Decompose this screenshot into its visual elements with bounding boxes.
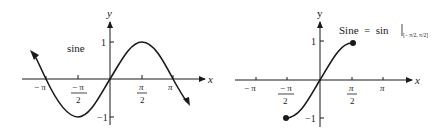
y-axis-label: y — [106, 7, 112, 19]
tick-label-half-pi-den: 2 — [140, 95, 145, 105]
figure: y x sine 1 −1 − π − π 2 π 2 π y x Sine = — [0, 0, 445, 134]
tick-label-half-pi-num: π — [139, 82, 144, 92]
x-axis-label: x — [207, 73, 213, 85]
y-one-label: 1 — [101, 37, 106, 48]
tick-label-half-pi-den: 2 — [350, 96, 355, 106]
y-neg-one-label: −1 — [305, 113, 316, 124]
tick-label-neg-pi: − π — [244, 83, 256, 93]
tick-label-neg-half-pi-num: − π — [280, 83, 292, 93]
tick-label-neg-half-pi-den: 2 — [283, 96, 288, 106]
sine-label: sine — [67, 42, 85, 54]
sine-restricted-label: Sine = sin — [339, 24, 389, 36]
y-axis-label: y — [317, 7, 323, 19]
restriction-interval: [− π/2, π/2] — [403, 32, 428, 38]
tick-label-neg-half-pi-den: 2 — [76, 95, 81, 105]
tick-label-half-pi-num: π — [349, 83, 354, 93]
x-axis-label: x — [414, 74, 420, 86]
left-arrow-icon — [30, 50, 39, 60]
y-neg-one-label: −1 — [97, 112, 108, 123]
tick-label-neg-half-pi-num: − π — [72, 82, 84, 92]
left-endpoint-dot — [283, 115, 289, 121]
y-one-label: 1 — [311, 36, 316, 47]
tick-label-pi: π — [380, 83, 385, 93]
right-plot: y x Sine = sin [− π/2, π/2] 1 −1 − π − π… — [235, 7, 428, 127]
tick-label-pi: π — [168, 82, 173, 92]
right-endpoint-dot — [350, 40, 356, 46]
tick-label-neg-pi: − π — [34, 82, 46, 92]
left-plot: y x sine 1 −1 − π − π 2 π 2 π — [22, 7, 213, 125]
